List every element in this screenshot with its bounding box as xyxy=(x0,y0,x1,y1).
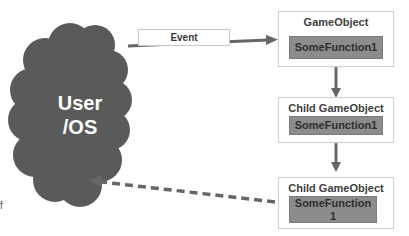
event-label: Event xyxy=(170,32,197,43)
cloud-label: User /OS xyxy=(40,91,120,139)
event-label-box: Event xyxy=(138,29,230,46)
child-gameobject-node: Child GameObject SomeFunction 1 xyxy=(278,177,394,229)
stray-text: f xyxy=(0,200,3,211)
function-box: SomeFunction1 xyxy=(289,36,383,59)
child-gameobject-node: Child GameObject SomeFunction1 xyxy=(278,97,394,143)
node-title: Child GameObject xyxy=(279,102,393,114)
cloud-label-line2: /OS xyxy=(40,115,120,139)
return-arrow xyxy=(89,175,275,202)
function-line2: 1 xyxy=(290,210,376,223)
cloud-label-line1: User xyxy=(40,91,120,115)
gameobject-node: GameObject SomeFunction1 xyxy=(278,11,394,67)
flow-arrow-1 xyxy=(331,67,341,98)
function-box: SomeFunction1 xyxy=(289,116,383,135)
flow-arrow-2 xyxy=(331,141,341,172)
function-box: SomeFunction 1 xyxy=(289,196,377,223)
function-line1: SomeFunction xyxy=(290,197,376,210)
node-title: Child GameObject xyxy=(279,182,393,194)
node-title: GameObject xyxy=(279,16,393,28)
